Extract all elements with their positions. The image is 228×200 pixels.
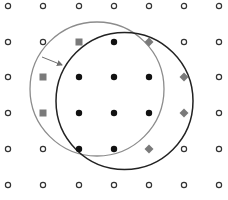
filled-point-icon	[146, 74, 152, 80]
open-point-icon	[216, 74, 221, 79]
open-point-icon	[216, 110, 221, 115]
old-neighborhood-circle	[30, 22, 164, 156]
filled-point-icon	[111, 146, 117, 152]
filled-point-icon	[111, 74, 117, 80]
open-point-icon	[5, 182, 10, 187]
open-point-icon	[76, 182, 81, 187]
grid-neighborhood-diagram	[0, 0, 228, 200]
diamond-point-icon	[179, 108, 188, 117]
filled-point-icon	[111, 110, 117, 116]
open-point-icon	[5, 110, 10, 115]
open-point-icon	[216, 182, 221, 187]
open-point-icon	[5, 39, 10, 44]
open-point-icon	[40, 182, 45, 187]
open-point-icon	[111, 182, 116, 187]
open-point-icon	[216, 39, 221, 44]
open-point-icon	[181, 182, 186, 187]
square-point-icon	[40, 110, 47, 117]
open-point-icon	[181, 146, 186, 151]
open-point-icon	[40, 39, 45, 44]
open-point-icon	[111, 3, 116, 8]
open-point-icon	[146, 3, 151, 8]
filled-point-icon	[146, 110, 152, 116]
filled-point-icon	[76, 146, 82, 152]
open-point-icon	[146, 182, 151, 187]
points-layer	[5, 3, 221, 187]
open-point-icon	[216, 146, 221, 151]
open-point-icon	[5, 146, 10, 151]
open-point-icon	[216, 3, 221, 8]
filled-point-icon	[76, 74, 82, 80]
open-point-icon	[76, 3, 81, 8]
open-point-icon	[40, 146, 45, 151]
square-point-icon	[76, 39, 83, 46]
square-point-icon	[40, 74, 47, 81]
open-point-icon	[40, 3, 45, 8]
filled-point-icon	[76, 110, 82, 116]
shift-arrow-icon	[42, 57, 62, 65]
open-point-icon	[181, 39, 186, 44]
arrow-layer	[42, 57, 62, 65]
open-point-icon	[5, 74, 10, 79]
diamond-point-icon	[144, 144, 153, 153]
filled-point-icon	[111, 39, 117, 45]
open-point-icon	[5, 3, 10, 8]
open-point-icon	[181, 3, 186, 8]
